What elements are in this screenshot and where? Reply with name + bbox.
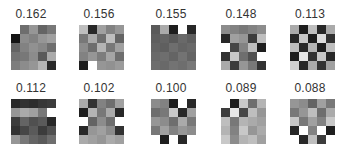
grid-cell xyxy=(308,108,317,117)
grid-cell xyxy=(88,99,97,108)
grid-cell xyxy=(221,34,230,43)
grid-cell xyxy=(326,61,335,70)
grid-cell xyxy=(257,135,266,144)
grid-cell xyxy=(221,25,230,34)
panel-score-label: 0.156 xyxy=(74,8,124,20)
grid-cell xyxy=(20,108,29,117)
grid-cell xyxy=(178,52,187,61)
grid-cell xyxy=(88,43,97,52)
grid-cell xyxy=(97,61,106,70)
panel-score-label: 0.088 xyxy=(285,82,335,94)
grid-cell xyxy=(169,43,178,52)
grid-cell xyxy=(187,43,196,52)
grid-cell xyxy=(29,108,38,117)
grid-cell xyxy=(115,43,124,52)
grid-cell xyxy=(248,25,257,34)
grid-cell xyxy=(88,25,97,34)
grid-cell xyxy=(20,43,29,52)
grid-cell xyxy=(79,99,88,108)
grid-cell xyxy=(239,99,248,108)
grid-cell xyxy=(257,52,266,61)
grid-cell xyxy=(38,61,47,70)
grid-cell xyxy=(97,135,106,144)
grid-cell xyxy=(290,135,299,144)
grid-cell xyxy=(221,117,230,126)
grid-cell xyxy=(317,52,326,61)
grid-cell xyxy=(151,99,160,108)
grid-cell xyxy=(97,52,106,61)
grid-cell xyxy=(29,135,38,144)
grid-cell xyxy=(248,108,257,117)
grid-cell xyxy=(106,99,115,108)
grid-cell xyxy=(326,135,335,144)
grid-cell xyxy=(20,61,29,70)
grid-cell xyxy=(187,126,196,135)
grid-cell xyxy=(187,99,196,108)
grid-cell xyxy=(151,61,160,70)
grid-cell xyxy=(187,52,196,61)
grid-cell xyxy=(115,117,124,126)
grid-cell xyxy=(308,99,317,108)
grid-cell xyxy=(299,61,308,70)
grid-cell xyxy=(290,61,299,70)
grid-cell xyxy=(317,25,326,34)
grid-cell xyxy=(317,117,326,126)
grid-cell xyxy=(97,117,106,126)
grid-cell xyxy=(308,117,317,126)
grid-cell xyxy=(97,108,106,117)
grid-cell xyxy=(187,25,196,34)
grid-cell xyxy=(29,61,38,70)
grid-cell xyxy=(20,52,29,61)
grid-cell xyxy=(88,52,97,61)
grid-cell xyxy=(47,43,56,52)
grid-cell xyxy=(317,135,326,144)
grid-cell xyxy=(88,117,97,126)
grid-cell xyxy=(169,61,178,70)
panel-score-label: 0.102 xyxy=(74,82,124,94)
grid-cell xyxy=(326,99,335,108)
grid-cell xyxy=(299,99,308,108)
grid-cell xyxy=(230,99,239,108)
grid-cell xyxy=(187,108,196,117)
grid-cell xyxy=(47,135,56,144)
grid-cell xyxy=(308,126,317,135)
grid-cell xyxy=(160,99,169,108)
grid-cell xyxy=(248,43,257,52)
grid-cell xyxy=(160,52,169,61)
grid-cell xyxy=(160,34,169,43)
grid-cell xyxy=(187,117,196,126)
grid-cell xyxy=(257,126,266,135)
grid-cell xyxy=(178,135,187,144)
grid-cell xyxy=(257,108,266,117)
grid-cell xyxy=(239,34,248,43)
grid-cell xyxy=(326,108,335,117)
panel-score-label: 0.148 xyxy=(216,8,266,20)
grid-cell xyxy=(106,43,115,52)
panel-score-label: 0.089 xyxy=(216,82,266,94)
grid-cell xyxy=(88,108,97,117)
grid-cell xyxy=(11,108,20,117)
grid-cell xyxy=(187,34,196,43)
grid-cell xyxy=(160,126,169,135)
grid-cell xyxy=(230,52,239,61)
grid-cell xyxy=(187,61,196,70)
grid-cell xyxy=(239,108,248,117)
grid-cell xyxy=(248,126,257,135)
grid-cell xyxy=(221,135,230,144)
grid-cell xyxy=(178,117,187,126)
grid-cell xyxy=(257,117,266,126)
grid-cell xyxy=(151,43,160,52)
grid-cell xyxy=(115,99,124,108)
grid-cell xyxy=(97,43,106,52)
grid-cell xyxy=(79,52,88,61)
grid-cell xyxy=(20,117,29,126)
grid-cell xyxy=(11,99,20,108)
grid-cell xyxy=(308,52,317,61)
patch-grid xyxy=(151,99,196,144)
grid-cell xyxy=(257,99,266,108)
grid-cell xyxy=(308,61,317,70)
grid-cell xyxy=(178,34,187,43)
patch-grid xyxy=(151,25,196,70)
grid-cell xyxy=(38,99,47,108)
grid-cell xyxy=(160,108,169,117)
